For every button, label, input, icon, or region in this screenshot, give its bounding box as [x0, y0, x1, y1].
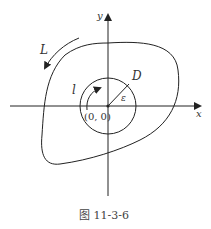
- x-axis-label: x: [196, 108, 202, 119]
- orientation-arrow-l: [87, 88, 100, 110]
- orientation-arrow-L: [45, 38, 79, 68]
- origin-point: [106, 104, 109, 107]
- region-label: D: [131, 69, 142, 83]
- radius-label: ε: [121, 93, 126, 103]
- outer-curve-label: L: [39, 43, 48, 57]
- y-axis-label: y: [96, 10, 103, 21]
- radius-line: [108, 84, 129, 106]
- origin-label: (0, 0): [84, 111, 111, 122]
- inner-circle-label: l: [72, 83, 76, 97]
- figure-caption: 图 11-3-6: [79, 209, 129, 222]
- diagram-canvas: y x L l D ε (0, 0) 图 11-3-6: [0, 0, 211, 229]
